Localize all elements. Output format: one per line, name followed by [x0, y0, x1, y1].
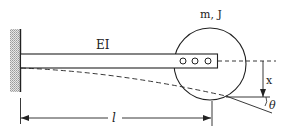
beam-body	[21, 54, 218, 68]
length-dimension	[21, 98, 213, 126]
rotation-arc	[265, 97, 267, 106]
length-label: l	[112, 111, 116, 125]
beam	[21, 54, 218, 68]
rotation-label: θ	[269, 99, 276, 112]
deflection-label: x	[266, 74, 273, 87]
fixed-wall-support	[10, 29, 21, 92]
tangent-line	[226, 96, 272, 113]
deflected-shape-curve	[21, 68, 226, 96]
wall-hatch	[10, 29, 20, 92]
end-mass-label: m, J	[200, 8, 222, 21]
cantilever-diagram: EI m, J x θ l	[0, 0, 281, 134]
beam-stiffness-label: EI	[96, 38, 110, 52]
